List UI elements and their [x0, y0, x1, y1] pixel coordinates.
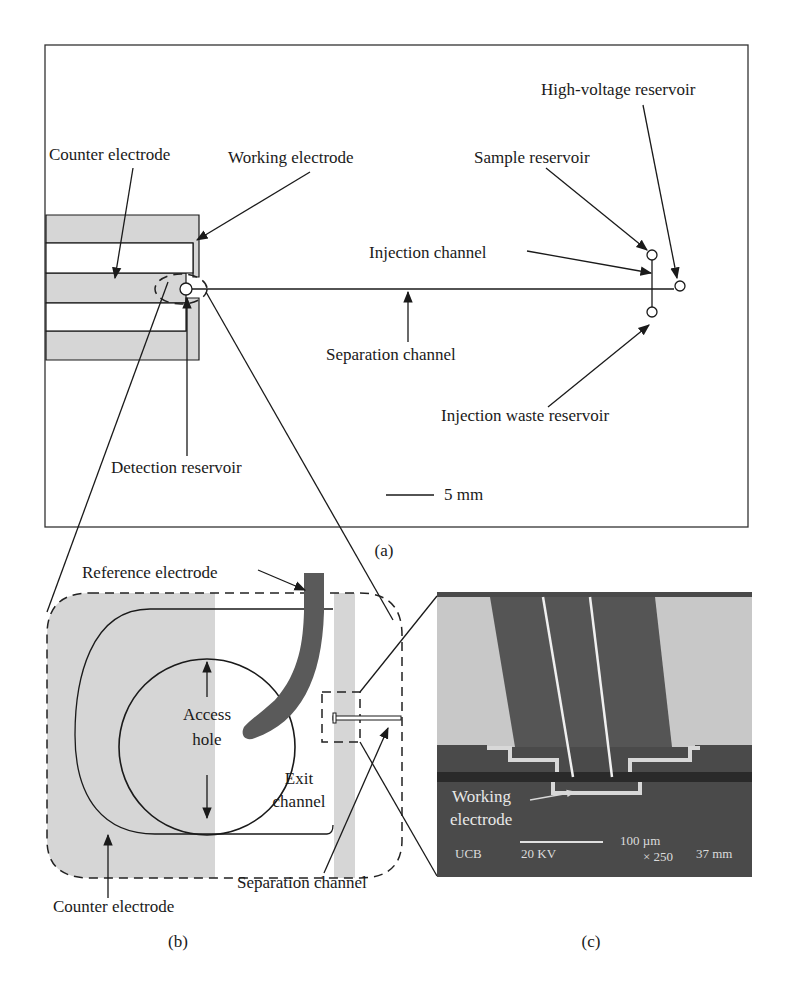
microchip-ce-diagram: Counter electrode Working electrode High… [0, 0, 792, 988]
reference-electrode-shape [243, 573, 324, 739]
label-injection-channel: Injection channel [369, 243, 487, 262]
panel-b: Reference electrode Access hole Exit cha… [47, 563, 402, 951]
scale-bar-label: 5 mm [444, 485, 483, 504]
sem-working-distance: 37 mm [696, 846, 732, 861]
label-separation-channel: Separation channel [326, 345, 456, 364]
caption-a: (a) [375, 541, 394, 560]
label-access-hole-1: Access [183, 705, 231, 724]
caption-c: (c) [582, 932, 601, 951]
caption-b: (b) [168, 932, 188, 951]
label-exit-channel-1: Exit [285, 769, 314, 788]
label-high-voltage-reservoir: High-voltage reservoir [541, 80, 696, 99]
sample-reservoir-circle [647, 250, 657, 260]
panel-c-sem-image: Working electrode UCB 20 KV 100 µm × 250… [437, 592, 752, 951]
electrode-pads [46, 215, 199, 360]
sem-magnification: × 250 [643, 849, 673, 864]
label-separation-channel-b: Separation channel [237, 873, 367, 892]
sem-label-working-2: electrode [450, 810, 512, 829]
arrow-separation-channel-b [324, 728, 388, 873]
arrow-reference-electrode [258, 570, 305, 590]
zoom-line-c-top [360, 596, 437, 692]
sem-voltage: 20 KV [521, 846, 557, 861]
label-sample-reservoir: Sample reservoir [474, 148, 590, 167]
sem-scale: 100 µm [620, 833, 660, 848]
label-access-hole-2: hole [192, 730, 221, 749]
label-counter-electrode: Counter electrode [49, 145, 170, 164]
zoom-line-c-bottom [360, 742, 437, 876]
panel-a: Counter electrode Working electrode High… [45, 45, 748, 560]
detection-reservoir-circle [180, 283, 192, 295]
label-injection-waste-reservoir: Injection waste reservoir [441, 406, 609, 425]
label-detection-reservoir: Detection reservoir [111, 458, 242, 477]
sem-label-working-1: Working [452, 787, 512, 806]
sem-lab: UCB [455, 846, 482, 861]
high-voltage-reservoir-circle [675, 281, 685, 291]
injection-waste-reservoir-circle [647, 307, 657, 317]
label-working-electrode: Working electrode [228, 148, 354, 167]
separation-channel-shape [333, 716, 401, 720]
label-exit-channel-2: channel [273, 792, 326, 811]
label-reference-electrode: Reference electrode [82, 563, 217, 582]
label-counter-electrode-b: Counter electrode [53, 897, 174, 916]
